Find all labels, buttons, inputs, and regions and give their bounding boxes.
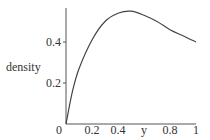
y-axis xyxy=(63,8,66,124)
x-tick-label-0.2: 0.2 xyxy=(85,123,100,137)
x-tick-label-1: 1 xyxy=(193,123,199,137)
x-axis-label: y xyxy=(141,123,147,137)
x-tick-label-0.4: 0.4 xyxy=(111,123,126,137)
x-tick-label-0.8: 0.8 xyxy=(163,123,178,137)
origin-label: 0 xyxy=(56,123,62,137)
y-axis-label: density xyxy=(6,60,41,74)
density-curve xyxy=(66,11,196,124)
density-chart: 0.4 0.2 density 0 0.2 0.4 y 0.8 1 xyxy=(0,0,210,140)
y-tick-label-0.4: 0.4 xyxy=(46,35,61,49)
y-tick-label-0.2: 0.2 xyxy=(46,76,61,90)
